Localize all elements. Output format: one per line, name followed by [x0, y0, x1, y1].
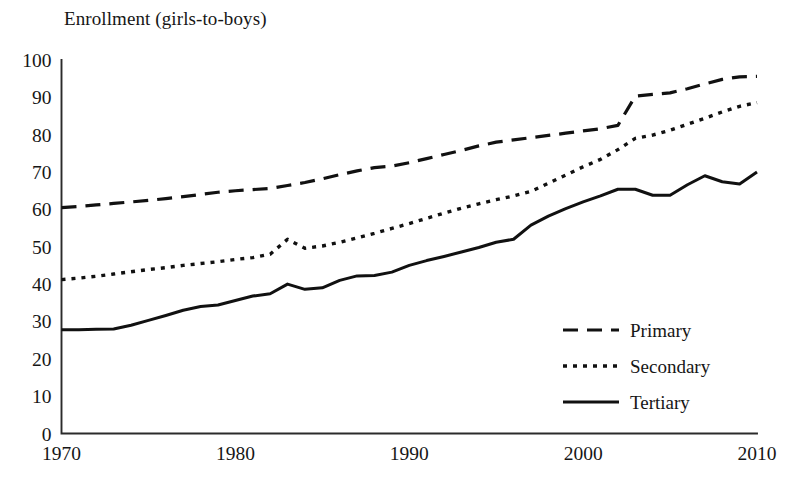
series-line-tertiary — [62, 172, 758, 330]
x-axis-tick-labels: 19701980199020002010 — [42, 443, 777, 464]
y-tick-label-100: 100 — [22, 50, 51, 71]
chart-page: Enrollment (girls-to-boys) 0102030405060… — [0, 0, 789, 502]
y-tick-label-40: 40 — [32, 274, 52, 295]
x-tick-label-2010: 2010 — [738, 443, 777, 464]
chart-axes — [62, 60, 758, 434]
legend-label-tertiary: Tertiary — [630, 392, 690, 413]
y-tick-label-90: 90 — [32, 87, 52, 108]
enrollment-line-chart: 0102030405060708090100 19701980199020002… — [0, 0, 789, 502]
y-tick-label-20: 20 — [32, 349, 52, 370]
chart-legend: PrimarySecondaryTertiary — [563, 320, 711, 413]
x-tick-label-2000: 2000 — [564, 443, 603, 464]
series-line-primary — [62, 76, 758, 207]
legend-label-secondary: Secondary — [630, 356, 711, 377]
series-line-secondary — [62, 103, 758, 280]
x-tick-label-1970: 1970 — [42, 443, 81, 464]
y-tick-label-50: 50 — [32, 237, 52, 258]
y-tick-label-30: 30 — [32, 311, 52, 332]
x-tick-label-1980: 1980 — [216, 443, 255, 464]
x-tick-label-1990: 1990 — [390, 443, 429, 464]
y-tick-label-60: 60 — [32, 199, 52, 220]
y-tick-label-10: 10 — [32, 386, 52, 407]
legend-label-primary: Primary — [630, 320, 692, 341]
series-layer — [62, 76, 758, 329]
y-axis-tick-labels: 0102030405060708090100 — [22, 50, 51, 445]
y-tick-label-70: 70 — [32, 162, 52, 183]
y-tick-label-0: 0 — [42, 424, 52, 445]
y-tick-label-80: 80 — [32, 125, 52, 146]
